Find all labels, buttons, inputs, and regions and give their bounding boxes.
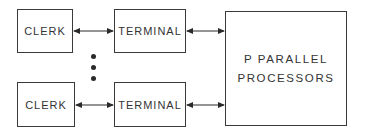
processor-label-line1: P PARALLEL xyxy=(237,50,334,69)
ellipsis-dot-icon xyxy=(91,76,96,81)
processor-label-line2: PROCESSORS xyxy=(237,69,334,88)
terminal-label: TERMINAL xyxy=(118,23,182,39)
ellipsis-dot-icon xyxy=(91,65,96,70)
terminal-label: TERMINAL xyxy=(118,97,182,113)
clerk-label: CLERK xyxy=(25,97,67,113)
clerk-box-2: CLERK xyxy=(17,82,75,127)
terminal-box-1: TERMINAL xyxy=(114,9,186,53)
terminal-box-2: TERMINAL xyxy=(114,82,186,127)
clerk-label: CLERK xyxy=(24,23,66,39)
parallel-processors-box: P PARALLEL PROCESSORS xyxy=(225,11,347,126)
clerk-box-1: CLERK xyxy=(17,9,73,53)
ellipsis-dot-icon xyxy=(91,54,96,59)
